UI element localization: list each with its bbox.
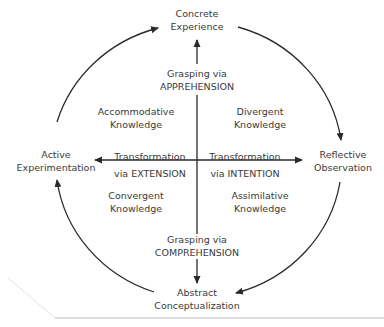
quadrant-accommodative: Accommodative Knowledge <box>98 106 175 131</box>
pole-right-line2: Observation <box>314 162 372 175</box>
divergent-line2: Knowledge <box>234 119 286 132</box>
divergent-line1: Divergent <box>234 106 286 119</box>
convergent-line1: Convergent <box>108 190 163 203</box>
accommodative-line2: Knowledge <box>98 119 175 132</box>
intention-line1: Transformation <box>209 148 280 165</box>
pole-right-line1: Reflective <box>314 149 372 162</box>
apprehension-line1: Grasping via <box>160 68 234 81</box>
intention-line2: via INTENTION <box>209 165 280 182</box>
quadrant-divergent: Divergent Knowledge <box>234 106 286 131</box>
axis-label-extension: Transformation via EXTENSION <box>114 148 186 182</box>
pole-active-experimentation: Active Experimentation <box>17 149 96 174</box>
extension-line2: via EXTENSION <box>114 165 186 182</box>
assimilative-line1: Assimilative <box>231 190 288 203</box>
pole-top-line1: Concrete <box>171 8 224 21</box>
pole-abstract-conceptualization: Abstract Conceptualization <box>154 287 239 312</box>
comprehension-line2: COMPREHENSION <box>155 247 239 260</box>
pole-concrete-experience: Concrete Experience <box>171 8 224 33</box>
axis-label-apprehension: Grasping via APPREHENSION <box>160 68 234 93</box>
assimilative-line2: Knowledge <box>231 203 288 216</box>
pole-left-line2: Experimentation <box>17 162 96 175</box>
quadrant-assimilative: Assimilative Knowledge <box>231 190 288 215</box>
pole-bottom-line2: Conceptualization <box>154 300 239 313</box>
comprehension-line1: Grasping via <box>155 234 239 247</box>
pole-left-line1: Active <box>17 149 96 162</box>
quadrant-convergent: Convergent Knowledge <box>108 190 163 215</box>
axis-label-intention: Transformation via INTENTION <box>209 148 280 182</box>
pole-bottom-line1: Abstract <box>154 287 239 300</box>
accommodative-line1: Accommodative <box>98 106 175 119</box>
pole-reflective-observation: Reflective Observation <box>314 149 372 174</box>
convergent-line2: Knowledge <box>108 203 163 216</box>
axis-label-comprehension: Grasping via COMPREHENSION <box>155 234 239 259</box>
page-edge-line <box>8 278 55 318</box>
apprehension-line2: APPREHENSION <box>160 81 234 94</box>
pole-top-line2: Experience <box>171 21 224 34</box>
extension-line1: Transformation <box>114 148 186 165</box>
